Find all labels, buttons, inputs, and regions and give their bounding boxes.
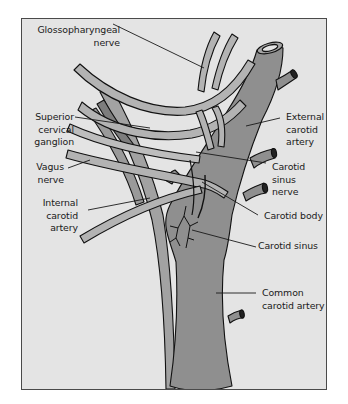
label-carotid-body: Carotid body <box>264 210 323 223</box>
label-external-carotid-artery: External carotid artery <box>286 111 324 149</box>
label-common-carotid-artery: Common carotid artery <box>262 287 325 312</box>
label-glossopharyngeal-nerve: Glossopharyngeal nerve <box>36 24 120 49</box>
label-superior-cervical-ganglion: Superior cervical ganglion <box>20 111 74 149</box>
label-vagus-nerve: Vagus nerve <box>20 161 64 186</box>
label-carotid-sinus-nerve: Carotid sinus nerve <box>272 161 305 199</box>
label-carotid-sinus: Carotid sinus <box>258 240 318 253</box>
label-internal-carotid-artery: Internal carotid artery <box>30 197 78 235</box>
